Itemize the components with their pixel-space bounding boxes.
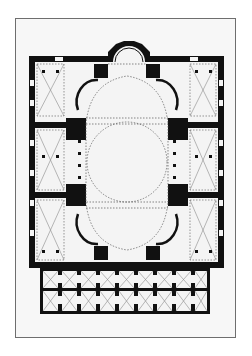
narthex [40,268,210,314]
apse [108,41,150,62]
main-body [29,56,224,268]
floor-plan [0,0,252,356]
